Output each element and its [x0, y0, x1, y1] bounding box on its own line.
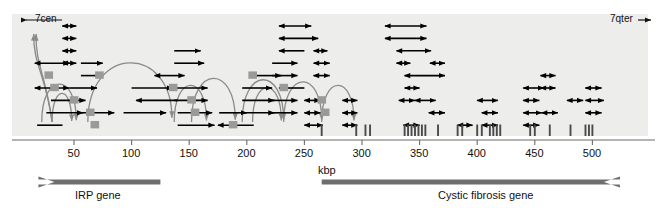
gene-direction-bars [38, 177, 620, 188]
probe-box [70, 96, 79, 103]
axis-title-kbp: kbp [318, 165, 336, 176]
figure-canvas [0, 0, 663, 208]
label-7qter: 7qter [610, 14, 633, 24]
gene-arrow-irp [38, 177, 160, 188]
probe-box [44, 71, 53, 78]
gene-label-irp: IRP gene [75, 190, 121, 201]
gene-label-cystic-fibrosis: Cystic fibrosis gene [438, 190, 533, 201]
probe-box [91, 121, 100, 128]
probe-box [248, 71, 257, 78]
axis-tick-label-50: 50 [68, 148, 80, 159]
axis-tick-label-200: 200 [237, 148, 255, 159]
probe-box [169, 84, 178, 91]
probe-box [229, 121, 238, 128]
axis-tick-label-500: 500 [583, 148, 601, 159]
genomic-map-figure: 7cen 7qter 50100150200250300350400450500… [0, 0, 663, 208]
axis-tick-label-100: 100 [122, 148, 140, 159]
probe-box [50, 84, 59, 91]
label-7cen: 7cen [35, 14, 57, 24]
gene-arrow-cystic-fibrosis [322, 177, 620, 188]
axis-tick-label-400: 400 [468, 148, 486, 159]
axis-tick-label-450: 450 [525, 148, 543, 159]
probe-box [191, 109, 200, 116]
axis-tick-label-250: 250 [295, 148, 313, 159]
probe-box [95, 71, 104, 78]
kbp-axis [12, 140, 655, 145]
probe-box [317, 96, 326, 103]
axis-tick-label-150: 150 [180, 148, 198, 159]
probe-box [321, 109, 330, 116]
probe-box [187, 96, 196, 103]
axis-tick-label-350: 350 [410, 148, 428, 159]
axis-tick-label-300: 300 [352, 148, 370, 159]
probe-box [86, 109, 95, 116]
probe-box [279, 84, 288, 91]
